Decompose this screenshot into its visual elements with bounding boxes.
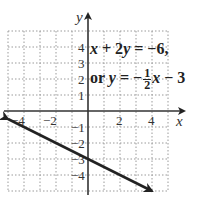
y-tick-label: −1	[71, 120, 85, 135]
y-tick-label: −4	[71, 168, 85, 183]
equation-standard-form: x + 2y = −6,	[90, 40, 168, 58]
y-tick-label: 3	[78, 56, 85, 71]
fraction-one-half: 12	[143, 68, 151, 91]
x-tick-label: 2	[116, 113, 123, 128]
eq-text: = −	[116, 69, 142, 86]
y-tick-label: 1	[78, 88, 85, 103]
y-tick-label: −2	[71, 136, 85, 151]
eq-text: − 3	[160, 69, 185, 86]
eq-text: = −6,	[130, 40, 168, 57]
fraction-denominator: 2	[143, 80, 151, 91]
y-tick-label: 4	[78, 40, 85, 55]
x-tick-label: 4	[148, 113, 155, 128]
eq-var-x: x	[90, 40, 98, 57]
coordinate-plane: x y −4 −2 2 4 4 3 2 1 −1 −2 −3 −4	[0, 0, 221, 197]
eq-or: or	[90, 69, 109, 86]
y-axis-label: y	[74, 9, 83, 25]
eq-var-x: x	[152, 69, 160, 86]
eq-text: + 2	[98, 40, 123, 57]
x-tick-label: −2	[43, 113, 57, 128]
eq-var-y: y	[109, 69, 116, 86]
x-axis-label: x	[175, 113, 183, 129]
y-tick-label: 2	[78, 72, 85, 87]
equation-slope-intercept-form: or y = −12x − 3	[90, 68, 185, 91]
